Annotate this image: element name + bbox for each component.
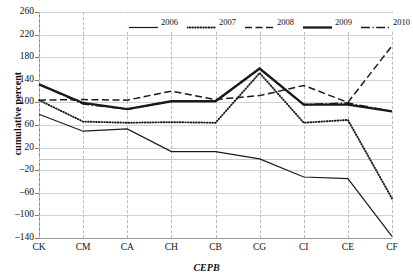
legend-label-2010: 2010 [393,17,410,27]
x-tick-label-ce: CE [326,242,370,252]
legend-label-2009: 2009 [335,17,352,27]
y-tick-mark [35,238,39,239]
y-tick-label: 260 [2,6,34,16]
x-tick-label-cb: CB [194,242,238,252]
gridline [39,238,392,239]
chart-legend: 20062007200820092010 [126,13,413,31]
legend-swatch-2008 [245,18,274,27]
y-tick-mark [35,170,39,171]
y-tick-mark [35,35,39,36]
series-line-2006 [39,114,392,236]
x-tick-label-ch: CH [149,242,193,252]
legend-label-2008: 2008 [277,17,294,27]
x-tick-label-cg: CG [238,242,282,252]
legend-swatch-2007 [187,18,216,27]
y-tick-mark [35,193,39,194]
y-tick-label: 220 [2,29,34,39]
y-tick-label: 20 [2,142,34,152]
legend-item-2008[interactable]: 2008 [245,17,294,27]
x-axis-title: CEPB [0,262,413,273]
x-tick-label-cm: CM [61,242,105,252]
y-tick-label: 100 [2,96,34,106]
y-tick-label: 60 [2,119,34,129]
y-tick-label: 180 [2,51,34,61]
series-lines [39,12,392,238]
y-tick-label: –100 [2,209,34,219]
y-tick-mark [35,80,39,81]
line-chart: cumulative percent 2602201801401006020–2… [0,0,413,275]
legend-swatch-2006 [129,18,158,27]
y-tick-label: 140 [2,74,34,84]
legend-swatch-2010 [361,18,390,27]
legend-label-2007: 2007 [219,17,236,27]
legend-item-2007[interactable]: 2007 [187,17,236,27]
y-tick-mark [35,148,39,149]
y-tick-mark [35,125,39,126]
legend-item-2006[interactable]: 2006 [129,17,178,27]
y-tick-label: –60 [2,187,34,197]
legend-label-2006: 2006 [161,17,178,27]
y-tick-mark [35,215,39,216]
y-tick-mark [35,12,39,13]
series-line-2008 [39,46,392,103]
legend-swatch-2009 [303,18,332,27]
y-tick-mark [35,102,39,103]
x-tick-label-ck: CK [17,242,61,252]
x-tick-label-cf: CF [370,242,413,252]
y-tick-label: –20 [2,164,34,174]
series-line-2007 [39,73,392,198]
category-gridline-cf [392,12,393,238]
y-tick-label: –140 [2,232,34,242]
plot-area [39,12,392,238]
y-tick-mark [35,57,39,58]
x-tick-label-ca: CA [105,242,149,252]
legend-item-2009[interactable]: 2009 [303,17,352,27]
legend-item-2010[interactable]: 2010 [361,17,410,27]
x-tick-label-ci: CI [282,242,326,252]
